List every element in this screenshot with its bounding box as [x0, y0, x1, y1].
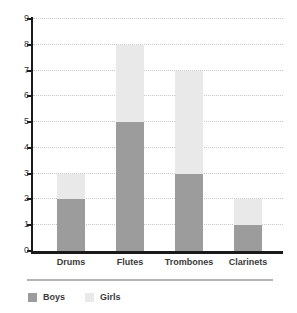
legend-label: Boys [43, 293, 65, 302]
y-axis-label-6: 6 [7, 91, 29, 100]
y-axis-label-8: 8 [7, 40, 29, 49]
y-axis-label-9: 9 [7, 14, 29, 23]
y-axis-label-3: 3 [7, 169, 29, 178]
legend-item-boys[interactable]: Boys [28, 293, 65, 302]
stacked-bar-chart: 0123456789 DrumsFlutesTrombonesClarinets… [0, 0, 297, 313]
bar-segment-trombones-girls[interactable] [175, 71, 203, 174]
bar-clarinets[interactable] [234, 199, 262, 251]
y-axis-label-2: 2 [7, 194, 29, 203]
legend-item-girls[interactable]: Girls [85, 293, 121, 302]
y-axis-label-7: 7 [7, 66, 29, 75]
legend-separator [27, 279, 273, 281]
bar-trombones[interactable] [175, 71, 203, 251]
y-axis-label-1: 1 [7, 220, 29, 229]
x-axis-line [31, 251, 283, 254]
y-axis-label-5: 5 [7, 117, 29, 126]
bar-segment-flutes-girls[interactable] [116, 45, 144, 122]
legend-label: Girls [100, 293, 121, 302]
bar-segment-clarinets-girls[interactable] [234, 199, 262, 225]
bar-segment-clarinets-boys[interactable] [234, 225, 262, 251]
bar-flutes[interactable] [116, 45, 144, 251]
legend-swatch-boys-icon [28, 293, 37, 302]
y-axis-label-0: 0 [7, 246, 29, 255]
x-axis-label-clarinets: Clarinets [213, 257, 283, 268]
bar-segment-drums-boys[interactable] [57, 199, 85, 251]
legend-swatch-girls-icon [85, 293, 94, 302]
plot-area [33, 19, 283, 251]
y-axis-label-4: 4 [7, 143, 29, 152]
bar-segment-trombones-boys[interactable] [175, 174, 203, 251]
bar-segment-drums-girls[interactable] [57, 174, 85, 200]
chart-legend: BoysGirls [28, 291, 141, 303]
bar-segment-flutes-boys[interactable] [116, 122, 144, 251]
bar-drums[interactable] [57, 174, 85, 251]
